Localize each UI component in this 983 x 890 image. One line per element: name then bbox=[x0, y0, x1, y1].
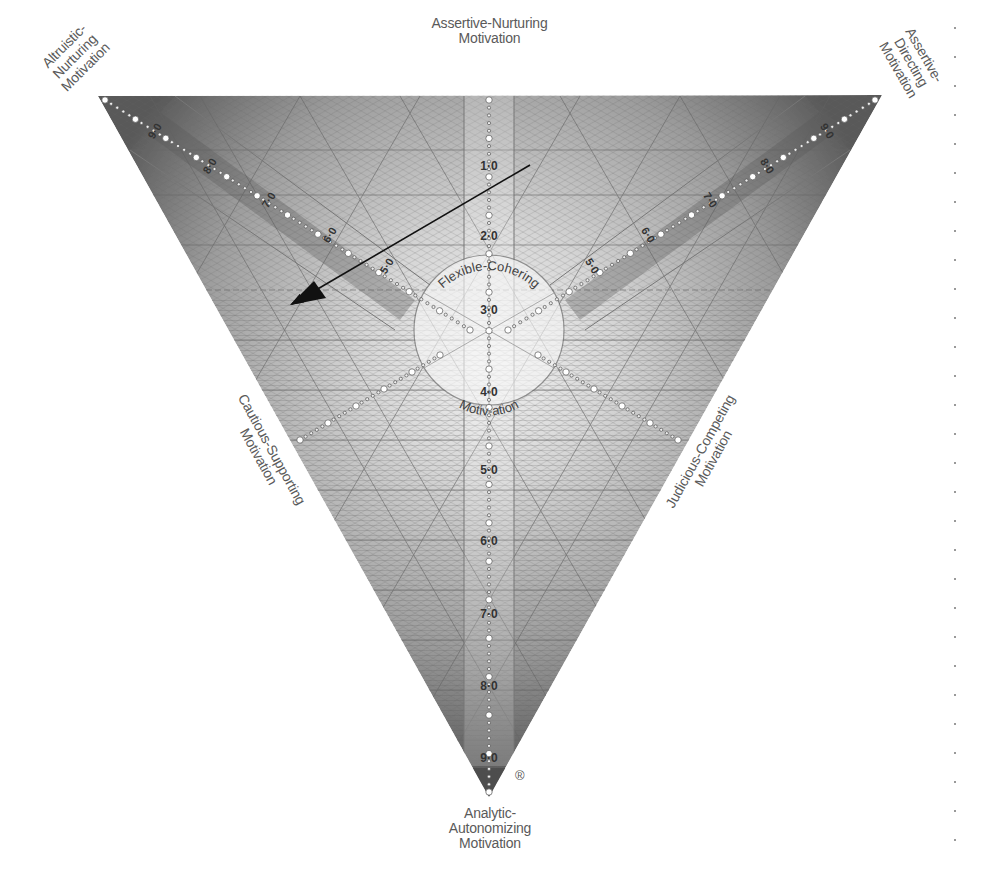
edge-dot bbox=[954, 288, 956, 290]
scale-dot bbox=[486, 366, 492, 372]
scale-dot bbox=[486, 328, 492, 334]
scale-dot bbox=[487, 744, 490, 747]
edge-dot bbox=[954, 520, 956, 522]
scale-dot bbox=[487, 375, 490, 378]
scale-dot bbox=[254, 193, 260, 199]
scale-dot bbox=[555, 298, 558, 301]
edge-dot bbox=[954, 462, 956, 464]
scale-dot bbox=[487, 506, 490, 509]
scale-dot bbox=[371, 394, 374, 397]
scale-dot bbox=[548, 360, 551, 363]
scale-dot bbox=[570, 374, 573, 377]
scale-dot bbox=[513, 325, 516, 328]
edge-dot bbox=[954, 810, 956, 812]
scale-dot bbox=[467, 327, 473, 333]
scale-dot bbox=[841, 116, 847, 122]
scale-dot bbox=[395, 282, 398, 285]
scale-dot bbox=[102, 97, 108, 103]
scale-dot bbox=[867, 102, 870, 105]
edge-dot bbox=[954, 404, 956, 406]
scale-dot bbox=[116, 106, 119, 109]
scale-dot bbox=[486, 481, 492, 487]
label-line: Analytic- bbox=[430, 806, 550, 821]
edge-dot bbox=[954, 433, 956, 435]
scale-dot bbox=[128, 114, 131, 117]
edge-dot bbox=[954, 230, 956, 232]
scale-dot bbox=[660, 428, 663, 431]
scale-dot bbox=[487, 644, 490, 647]
scale-label: 2·0 bbox=[480, 229, 498, 243]
scale-dot bbox=[617, 259, 620, 262]
scale-dot bbox=[806, 141, 809, 144]
scale-dot bbox=[487, 275, 490, 278]
scale-dot bbox=[486, 789, 492, 795]
scale-dot bbox=[353, 403, 359, 409]
scale-dot bbox=[487, 775, 490, 778]
scale-dot bbox=[433, 357, 436, 360]
scale-dot bbox=[487, 152, 490, 155]
scale-dot bbox=[647, 420, 653, 426]
edge-dot bbox=[954, 201, 956, 203]
scale-dot bbox=[406, 289, 412, 295]
scale-dot bbox=[635, 248, 638, 251]
scale-dot bbox=[456, 321, 459, 324]
scale-dot bbox=[632, 411, 635, 414]
scale-dot bbox=[487, 706, 490, 709]
scale-dot bbox=[365, 263, 368, 266]
scale-dot bbox=[487, 221, 490, 224]
scale-dot bbox=[643, 418, 646, 421]
scale-dot bbox=[193, 154, 199, 160]
scale-dot bbox=[381, 386, 387, 392]
scale-dot bbox=[486, 174, 492, 180]
scale-dot bbox=[519, 321, 522, 324]
scale-dot bbox=[610, 263, 613, 266]
scale-dot bbox=[535, 308, 541, 314]
scale-dot bbox=[574, 286, 577, 289]
scale-dot bbox=[678, 221, 681, 224]
edge-dot bbox=[954, 143, 956, 145]
scale-dot bbox=[487, 529, 490, 532]
scale-dot bbox=[637, 415, 640, 418]
scale-dot bbox=[486, 520, 492, 526]
scale-dot bbox=[487, 583, 490, 586]
scale-dot bbox=[189, 152, 192, 155]
scale-dot bbox=[219, 171, 222, 174]
scale-dot bbox=[727, 190, 730, 193]
scale-dot bbox=[658, 231, 664, 237]
scale-dot bbox=[487, 437, 490, 440]
scale-dot bbox=[696, 210, 699, 213]
scale-dot bbox=[581, 381, 584, 384]
label-line: Autonomizing bbox=[430, 821, 550, 836]
scale-dot bbox=[487, 452, 490, 455]
scale-label: 1·0 bbox=[480, 159, 498, 173]
scale-dot bbox=[788, 152, 791, 155]
scale-dot bbox=[487, 122, 490, 125]
scale-dot bbox=[274, 206, 277, 209]
scale-dot bbox=[427, 360, 430, 363]
scale-dot bbox=[280, 210, 283, 213]
scale-dot bbox=[598, 391, 601, 394]
scale-dot bbox=[416, 367, 419, 370]
scale-dot bbox=[450, 317, 453, 320]
scale-dot bbox=[486, 251, 492, 257]
scale-dot bbox=[531, 313, 534, 316]
scale-dot bbox=[487, 337, 490, 340]
scale-dot bbox=[487, 729, 490, 732]
scale-dot bbox=[604, 267, 607, 270]
scale-dot bbox=[487, 737, 490, 740]
scale-dot bbox=[487, 129, 490, 132]
scale-dot bbox=[543, 305, 546, 308]
scale-dot bbox=[486, 558, 492, 564]
scale-label: 8·0 bbox=[480, 679, 498, 693]
scale-dot bbox=[688, 212, 694, 218]
scale-dot bbox=[377, 391, 380, 394]
scale-dot bbox=[170, 141, 173, 144]
scale-dot bbox=[487, 191, 490, 194]
scale-label: 9·0 bbox=[480, 751, 498, 765]
edge-dot bbox=[954, 665, 956, 667]
scale-dot bbox=[745, 179, 748, 182]
scale-dot bbox=[525, 317, 528, 320]
scale-dot bbox=[623, 256, 626, 259]
label-line: Motivation bbox=[412, 31, 567, 46]
scale-dot bbox=[486, 135, 492, 141]
